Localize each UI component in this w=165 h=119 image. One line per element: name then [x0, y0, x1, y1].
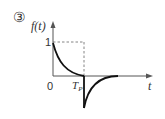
x-axis-label: t: [148, 79, 152, 93]
waveform-diagram: ③ f(t) 1 0 TP t: [0, 0, 165, 119]
decay-negative: [84, 76, 118, 108]
decay-positive: [53, 43, 84, 76]
figure-index: ③: [13, 9, 26, 25]
x-axis-arrow-icon: [146, 74, 153, 79]
level-one-label: 1: [45, 36, 51, 48]
origin-label: 0: [47, 80, 53, 92]
y-axis-label: f(t): [31, 19, 46, 33]
tp-label: TP: [72, 79, 83, 93]
y-axis-arrow-icon: [51, 21, 56, 28]
tp-sub: P: [77, 85, 83, 93]
